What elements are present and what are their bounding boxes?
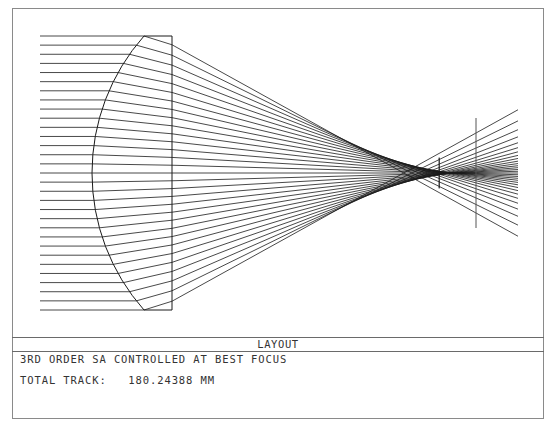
ray xyxy=(40,121,518,301)
ray xyxy=(40,155,518,246)
aperture-stop-box xyxy=(439,158,440,188)
total-track-readout: TOTAL TRACK: 180.24388 MM xyxy=(20,374,215,386)
ray xyxy=(40,110,518,310)
design-note: 3RD ORDER SA CONTROLLED AT BEST FOCUS xyxy=(20,353,287,365)
ray xyxy=(40,100,518,191)
ray xyxy=(40,45,518,225)
plot-title: LAYOUT xyxy=(12,337,544,352)
optical-layout-diagram xyxy=(0,0,556,337)
ray-fan xyxy=(40,36,518,310)
ray xyxy=(40,36,518,236)
